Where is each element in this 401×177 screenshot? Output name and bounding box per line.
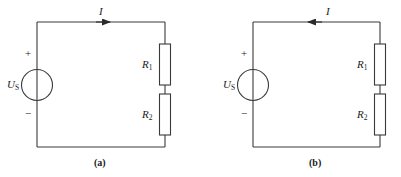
resistor-r1-label-sub-b: 1 bbox=[364, 63, 368, 72]
resistor-r2-a bbox=[160, 94, 171, 135]
circuit-drawing bbox=[0, 0, 401, 177]
resistor-r2-label-b: R2 bbox=[357, 109, 367, 122]
source-label-b: US bbox=[223, 79, 235, 92]
circuit-a bbox=[22, 22, 171, 147]
resistor-r1-label-a: R1 bbox=[142, 59, 152, 72]
resistor-r2-label-a: R2 bbox=[142, 109, 152, 122]
circuit-b bbox=[238, 22, 386, 147]
resistor-r1-label-main-b: R bbox=[357, 58, 364, 70]
source-label-main-a: U bbox=[7, 78, 15, 90]
caption-b: (b) bbox=[309, 158, 321, 168]
source-label-sub-b: S bbox=[231, 83, 235, 92]
source-minus-sign-b: − bbox=[241, 108, 247, 119]
source-plus-sign-a: + bbox=[25, 48, 31, 59]
source-label-a: US bbox=[7, 79, 19, 92]
resistor-r1-label-main-a: R bbox=[142, 58, 149, 70]
source-plus-sign-b: + bbox=[241, 48, 247, 59]
caption-a: (a) bbox=[94, 158, 106, 168]
source-minus-sign-a: − bbox=[25, 108, 31, 119]
current-label-a: I bbox=[99, 6, 103, 17]
source-label-sub-a: S bbox=[15, 83, 19, 92]
current-label-b: I bbox=[326, 6, 330, 17]
resistor-r2-label-main-b: R bbox=[357, 108, 364, 120]
resistor-r2-label-sub-b: 2 bbox=[364, 113, 368, 122]
resistor-r1-a bbox=[160, 44, 171, 85]
resistor-r2-label-sub-a: 2 bbox=[149, 113, 153, 122]
resistor-r1-label-b: R1 bbox=[357, 59, 367, 72]
resistor-r1-label-sub-a: 1 bbox=[149, 63, 153, 72]
resistor-r1-b bbox=[375, 44, 386, 85]
circuit-figure: I + − US R1 R2 (a) I + − US R1 R2 (b) bbox=[0, 0, 401, 177]
resistor-r2-label-main-a: R bbox=[142, 108, 149, 120]
resistor-r2-b bbox=[375, 94, 386, 135]
source-label-main-b: U bbox=[223, 78, 231, 90]
